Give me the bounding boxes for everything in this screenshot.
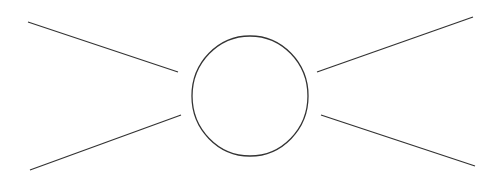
central-circle [192,36,308,156]
diagram-canvas [0,0,498,181]
line-top-right [317,17,473,72]
line-bottom-left [30,115,181,170]
line-bottom-right [321,115,475,166]
line-top-left [28,22,178,72]
radiating-lines [28,17,475,170]
